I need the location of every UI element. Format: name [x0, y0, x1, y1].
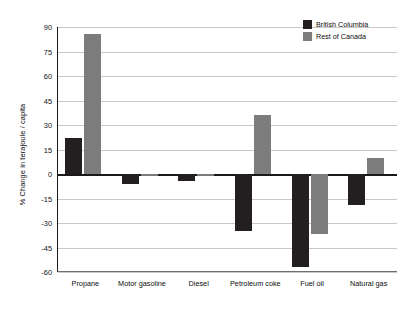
bar-group — [228, 27, 285, 271]
legend: British ColumbiaRest of Canada — [303, 19, 368, 43]
legend-label: British Columbia — [316, 20, 368, 29]
y-axis-tick-label: 60 — [22, 72, 52, 81]
y-axis-tick-label: 90 — [22, 23, 52, 32]
y-axis-tick-label: -15 — [22, 194, 52, 203]
legend-swatch-icon — [303, 32, 312, 41]
plot-area — [57, 27, 397, 272]
y-axis-tick-label: -60 — [22, 268, 52, 277]
x-axis-tick-label: Diesel — [189, 279, 209, 288]
bar — [141, 174, 158, 176]
bar — [122, 174, 139, 184]
y-axis-tick-label: 0 — [22, 170, 52, 179]
bar-group — [171, 27, 228, 271]
bar — [84, 34, 101, 174]
x-axis-tick-label: Propane — [72, 279, 100, 288]
bar — [348, 174, 365, 205]
bar — [292, 174, 309, 267]
bar — [367, 158, 384, 174]
y-axis-tick-label: -30 — [22, 219, 52, 228]
bar — [65, 138, 82, 174]
y-axis-tick-label: 45 — [22, 96, 52, 105]
bar-group — [285, 27, 342, 271]
legend-item: Rest of Canada — [303, 31, 368, 41]
y-axis-tick-label: -45 — [22, 243, 52, 252]
bar — [254, 115, 271, 174]
legend-swatch-icon — [303, 20, 312, 29]
bar-group — [58, 27, 115, 271]
legend-item: British Columbia — [303, 19, 368, 29]
legend-label: Rest of Canada — [316, 32, 366, 41]
x-axis-tick-label: Petroleum coke — [230, 279, 281, 288]
bar-chart: % Change in terajoule / capita 907560453… — [0, 0, 412, 311]
y-axis-tick-label: 30 — [22, 121, 52, 130]
y-axis-tick-label: 15 — [22, 145, 52, 154]
bar — [178, 174, 195, 181]
gridline — [58, 272, 397, 273]
bar — [311, 174, 328, 234]
y-axis-tick-label: 75 — [22, 47, 52, 56]
x-axis-tick-label: Natural gas — [350, 279, 387, 288]
bar — [197, 174, 214, 176]
bar-group — [341, 27, 398, 271]
x-axis-tick-label: Motor gasoline — [118, 279, 166, 288]
bar-group — [115, 27, 172, 271]
x-axis-tick-label: Fuel oil — [300, 279, 324, 288]
bar — [235, 174, 252, 231]
